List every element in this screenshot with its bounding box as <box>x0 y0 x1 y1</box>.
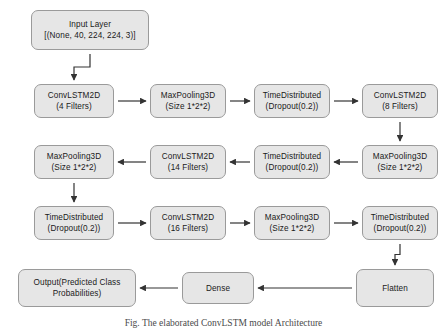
node-output-line1: Output(Predicted Class <box>34 277 121 288</box>
node-pool2: MaxPooling3D(Size 1*2*2) <box>34 145 114 179</box>
node-pool2-line1: MaxPooling3D <box>47 151 101 162</box>
node-output-line2: Probabilities) <box>53 288 102 299</box>
node-drop4-line2: (Dropout(0.2)) <box>374 223 427 234</box>
node-pool3-line2: (Size 1*2*2) <box>378 162 423 173</box>
node-pool1-line2: (Size 1*2*2) <box>166 101 211 112</box>
node-drop2-line1: TimeDistributed <box>263 151 322 162</box>
node-flatten: Flatten <box>356 269 434 307</box>
node-input-line2: [(None, 40, 224, 224, 3)] <box>44 30 135 41</box>
node-drop3-line2: (Dropout(0.2)) <box>48 223 101 234</box>
node-drop2-line2: (Dropout(0.2)) <box>266 162 319 173</box>
node-pool4-line2: (Size 1*2*2) <box>270 223 315 234</box>
node-pool4-line1: MaxPooling3D <box>265 212 319 223</box>
node-dense-line1: Dense <box>206 283 230 294</box>
node-drop4: TimeDistributed(Dropout(0.2)) <box>362 206 438 240</box>
node-conv4-line1: ConvLSTM2D <box>162 212 214 223</box>
node-pool1-line1: MaxPooling3D <box>161 90 215 101</box>
node-dense: Dense <box>182 272 254 304</box>
node-drop4-line1: TimeDistributed <box>371 212 430 223</box>
arrow-input-to-conv1 <box>74 54 90 80</box>
node-conv1: ConvLSTM2D(4 Filters) <box>34 84 114 118</box>
node-drop3-line1: TimeDistributed <box>45 212 104 223</box>
node-pool3: MaxPooling3D(Size 1*2*2) <box>362 145 438 179</box>
node-output: Output(Predicted ClassProbabilities) <box>18 269 136 307</box>
node-pool4: MaxPooling3D(Size 1*2*2) <box>254 206 330 240</box>
node-conv3: ConvLSTM2D(14 Filters) <box>150 145 226 179</box>
node-drop1-line1: TimeDistributed <box>263 90 322 101</box>
figure-caption: Fig. The elaborated ConvLSTM model Archi… <box>0 318 447 328</box>
node-input-line1: Input Layer <box>69 19 111 30</box>
node-flatten-line1: Flatten <box>382 283 408 294</box>
node-drop3: TimeDistributed(Dropout(0.2)) <box>34 206 114 240</box>
model-architecture-diagram: Input Layer[(None, 40, 224, 224, 3)]Conv… <box>0 0 447 330</box>
node-conv4-line2: (16 Filters) <box>168 223 208 234</box>
node-conv1-line1: ConvLSTM2D <box>48 90 100 101</box>
arrow-drop4-to-flatten <box>395 244 400 265</box>
node-drop1: TimeDistributed(Dropout(0.2)) <box>254 84 330 118</box>
node-input: Input Layer[(None, 40, 224, 224, 3)] <box>31 10 149 50</box>
node-conv1-line2: (4 Filters) <box>56 101 92 112</box>
node-conv4: ConvLSTM2D(16 Filters) <box>150 206 226 240</box>
node-drop2: TimeDistributed(Dropout(0.2)) <box>254 145 330 179</box>
node-conv2-line1: ConvLSTM2D <box>374 90 426 101</box>
node-conv2-line2: (8 Filters) <box>382 101 418 112</box>
node-conv3-line2: (14 Filters) <box>168 162 208 173</box>
node-pool2-line2: (Size 1*2*2) <box>52 162 97 173</box>
node-drop1-line2: (Dropout(0.2)) <box>266 101 319 112</box>
node-conv2: ConvLSTM2D(8 Filters) <box>362 84 438 118</box>
node-conv3-line1: ConvLSTM2D <box>162 151 214 162</box>
node-pool3-line1: MaxPooling3D <box>373 151 427 162</box>
node-pool1: MaxPooling3D(Size 1*2*2) <box>150 84 226 118</box>
